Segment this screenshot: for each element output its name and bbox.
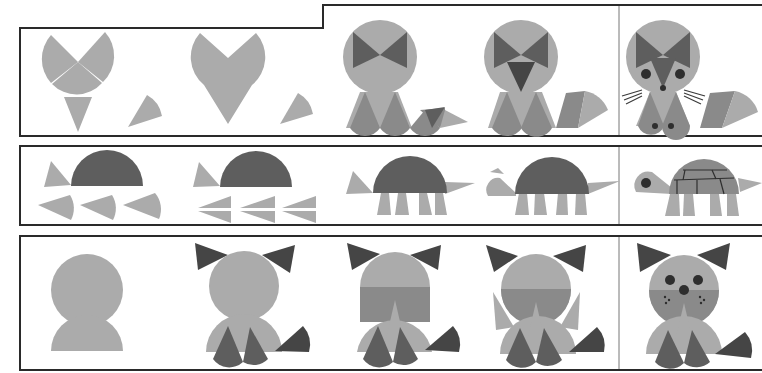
cat-step-3 (347, 243, 460, 367)
fox-step-4 (484, 20, 608, 137)
turtle-step-3 (346, 156, 475, 215)
cat-step-2 (195, 243, 310, 367)
cat-step-5-complete (637, 243, 752, 369)
turtle-step-5-complete (634, 159, 762, 216)
cat-step-1 (51, 254, 123, 351)
fox-step-2 (191, 33, 313, 124)
turtle-step-1 (38, 150, 161, 220)
fox-step-1 (42, 32, 162, 132)
turtle-step-2 (193, 151, 316, 223)
cat-step-4 (486, 245, 605, 368)
shape-assembly-illustration (0, 0, 762, 373)
turtle-step-4 (486, 157, 620, 215)
fox-step-3 (343, 20, 468, 136)
fox-step-5-complete (622, 20, 758, 140)
